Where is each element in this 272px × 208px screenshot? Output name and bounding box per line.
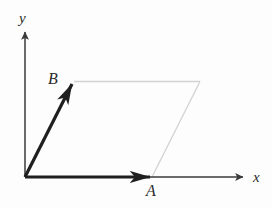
vector-b xyxy=(25,84,72,177)
vector-diagram-canvas: A B x y xyxy=(0,0,272,208)
x-axis-label: x xyxy=(252,169,260,185)
coordinate-axes xyxy=(25,32,243,177)
vector-a-label: A xyxy=(145,182,156,199)
vector-b-shaft xyxy=(25,84,72,177)
vector-b-label: B xyxy=(48,70,58,87)
vector-parallelogram-figure: A B x y xyxy=(0,0,272,208)
sum-parallelogram xyxy=(74,82,200,178)
y-axis-label: y xyxy=(17,10,26,26)
parallelogram-right-edge xyxy=(152,82,200,178)
